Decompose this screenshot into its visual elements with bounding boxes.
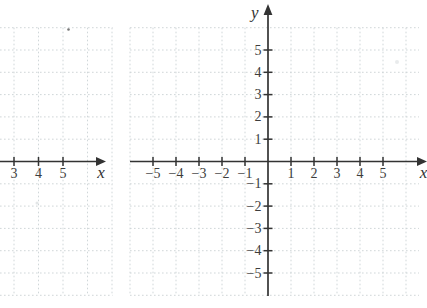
y-tick-label: −4 xyxy=(247,243,262,258)
x-tick-label: −3 xyxy=(192,166,207,181)
x-axis-label: x xyxy=(96,163,105,182)
x-tick-label: 5 xyxy=(380,166,387,181)
x-tick-label: 5 xyxy=(60,166,67,181)
y-tick-label: −1 xyxy=(247,176,262,191)
y-tick-label: 2 xyxy=(255,109,262,124)
x-tick-label: −4 xyxy=(169,166,184,181)
x-tick-label: 4 xyxy=(35,166,42,181)
scan-speck xyxy=(67,28,70,31)
x-tick-label: 1 xyxy=(288,166,295,181)
y-axis-arrowhead xyxy=(264,4,273,15)
scan-speck xyxy=(36,202,39,205)
scan-speck xyxy=(395,60,399,64)
y-tick-label: −5 xyxy=(247,266,262,281)
y-tick-label: −3 xyxy=(247,221,262,236)
x-tick-label: −5 xyxy=(146,166,161,181)
x-tick-label: −2 xyxy=(215,166,230,181)
x-tick-label: 3 xyxy=(334,166,341,181)
x-tick-label: 3 xyxy=(11,166,18,181)
x-tick-label: 4 xyxy=(357,166,364,181)
right-coordinate-plane: −5−4−3−2−112345x54321−1−2−3−4−5y xyxy=(130,3,427,296)
figure-svg: 345x −5−4−3−2−112345x54321−1−2−3−4−5y xyxy=(0,0,427,308)
x-tick-label: 2 xyxy=(311,166,318,181)
coordinate-grids-figure: 345x −5−4−3−2−112345x54321−1−2−3−4−5y xyxy=(0,0,427,308)
y-tick-label: 4 xyxy=(255,65,262,80)
y-tick-label: 5 xyxy=(255,43,262,58)
x-axis-label: x xyxy=(419,163,427,182)
left-coordinate-plane-cropped: 345x xyxy=(0,28,113,296)
y-tick-label: 3 xyxy=(255,87,262,102)
y-tick-label: −2 xyxy=(247,199,262,214)
y-axis-label: y xyxy=(249,3,259,22)
y-tick-label: 1 xyxy=(255,132,262,147)
